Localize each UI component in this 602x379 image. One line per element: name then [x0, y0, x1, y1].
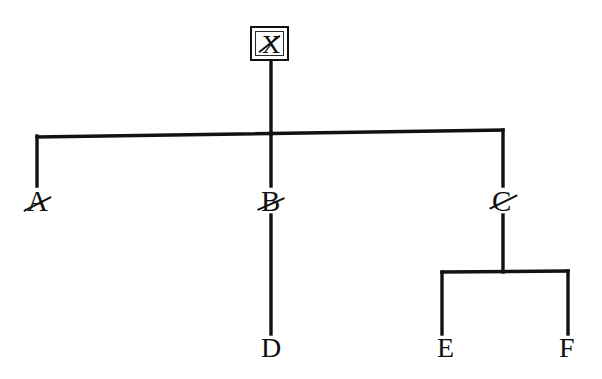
node-text-f: F: [559, 332, 575, 363]
tree-connectors: [0, 0, 602, 379]
node-label-e: E: [437, 334, 454, 362]
node-text-e: E: [437, 332, 454, 363]
node-label-d: D: [261, 334, 281, 362]
node-text-d: D: [261, 332, 281, 363]
tree-diagram: X A B C D E F: [0, 0, 602, 379]
edge-level2-bus: [442, 271, 568, 272]
node-label-f: F: [559, 334, 575, 362]
